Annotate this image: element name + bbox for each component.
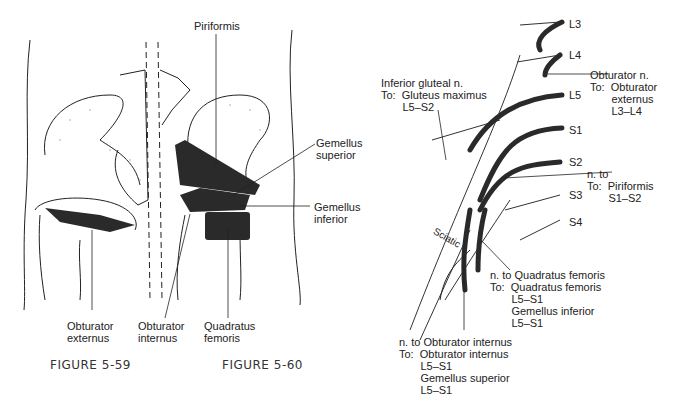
annotation-obturator-nerve: Obturator n. To: Obturator externus L3–L… (590, 69, 657, 117)
root-s3: S3 (569, 189, 582, 201)
pelvis-drawing (24, 30, 300, 310)
annotation-nerve-to-piriformis: n. to To: Piriformis S1–S2 (587, 168, 654, 204)
label-obturator-externus: Obturator externus (67, 320, 113, 344)
annotation-nerve-to-obturator-internus: n. to Obturator internus To: Obturator i… (399, 336, 512, 396)
root-s2: S2 (569, 156, 582, 168)
root-l3: L3 (569, 18, 581, 30)
caption-figure-5-59: FIGURE 5-59 (50, 358, 131, 372)
label-gemellus-inferior: Gemellus inferior (314, 201, 360, 225)
midline-dash-1 (146, 42, 150, 300)
root-s4: S4 (569, 216, 582, 228)
root-l5: L5 (569, 89, 581, 101)
muscles (45, 140, 260, 240)
root-l4: L4 (569, 49, 581, 61)
annotation-inferior-gluteal-nerve: Inferior gluteal n. To: Gluteus maximus … (381, 77, 487, 113)
caption-figure-5-60: FIGURE 5-60 (222, 358, 303, 372)
label-quadratus-femoris: Quadratus femoris (204, 320, 255, 344)
label-gemellus-superior: Gemellus superior (316, 137, 362, 161)
midline-dash-2 (158, 42, 162, 300)
label-piriformis: Piriformis (194, 20, 240, 32)
root-s1: S1 (569, 124, 582, 136)
annotation-nerve-to-quadratus-femoris: n. to Quadratus femoris To: Quadratus fe… (490, 269, 605, 329)
label-obturator-internus: Obturator internus (138, 320, 184, 344)
